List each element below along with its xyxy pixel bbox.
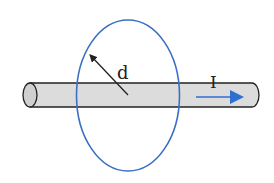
diagram-canvas: d I	[0, 0, 274, 183]
distance-label: d	[117, 62, 129, 83]
wire-loop-diagram: d I	[0, 0, 274, 183]
current-label: I	[210, 72, 217, 92]
wire-end-cap	[23, 83, 37, 107]
wire	[23, 83, 259, 107]
